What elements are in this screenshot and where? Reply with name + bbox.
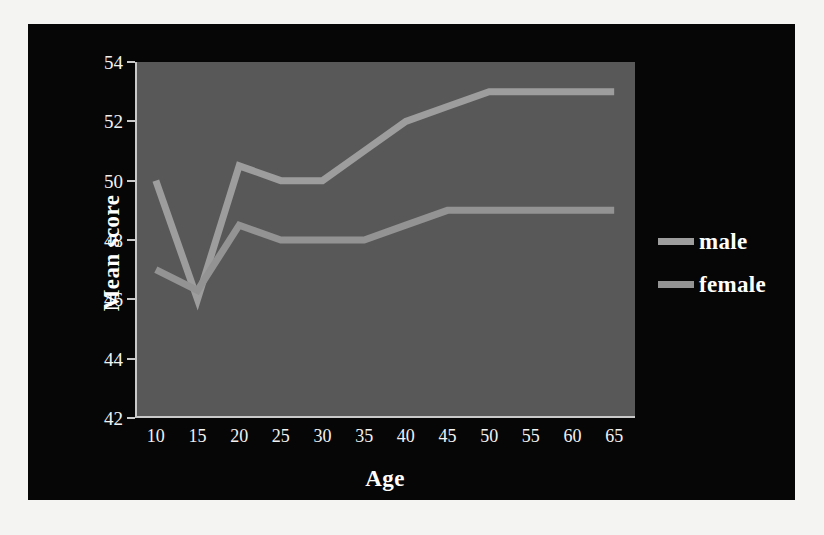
y-tick-label: 42 (81, 409, 123, 428)
x-tick-label: 50 (469, 426, 509, 447)
legend-item-male[interactable]: male (658, 220, 808, 263)
y-tick-mark (127, 358, 135, 360)
x-tick-label: 65 (594, 426, 634, 447)
y-tick-label: 54 (81, 53, 123, 72)
y-tick-mark (127, 180, 135, 182)
legend-label-male: male (699, 229, 747, 255)
y-tick-mark (127, 61, 135, 63)
x-tick-label: 15 (178, 426, 218, 447)
y-tick-mark (127, 239, 135, 241)
y-tick-mark (127, 417, 135, 419)
legend: malefemale (658, 220, 808, 306)
x-tick-label: 25 (261, 426, 301, 447)
y-tick-mark (127, 298, 135, 300)
x-tick-label: 30 (303, 426, 343, 447)
y-tick-label: 52 (81, 112, 123, 131)
chart-panel: 42444648505254 101520253035404550556065 … (28, 24, 795, 500)
x-tick-label: 10 (136, 426, 176, 447)
chart-figure: 42444648505254 101520253035404550556065 … (0, 0, 824, 535)
x-tick-label: 40 (386, 426, 426, 447)
legend-item-female[interactable]: female (658, 263, 808, 306)
y-tick-mark (127, 120, 135, 122)
legend-swatch-male (658, 238, 694, 245)
x-tick-label: 55 (511, 426, 551, 447)
x-tick-label: 35 (344, 426, 384, 447)
y-axis-title: Mean score (99, 143, 125, 363)
series-line-male (156, 92, 614, 300)
plot-area (135, 62, 635, 418)
x-axis-title: Age (135, 466, 635, 492)
legend-label-female: female (699, 272, 766, 298)
legend-swatch-female (658, 281, 694, 288)
plot-svg (135, 62, 635, 418)
x-tick-label: 60 (553, 426, 593, 447)
x-tick-label: 45 (428, 426, 468, 447)
x-tick-label: 20 (219, 426, 259, 447)
